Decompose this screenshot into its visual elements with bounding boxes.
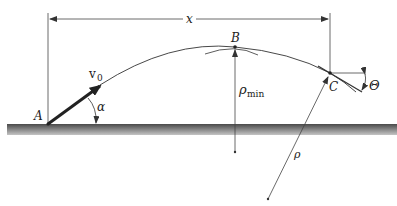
x-label: x [186,12,193,26]
theta-label: Θ [369,78,380,93]
curvature-arc-b [205,49,258,55]
tangent-line-c [318,66,362,92]
point-a [46,122,49,125]
rho-label: ρ [293,148,301,161]
center-of-curvature-c [267,198,269,200]
rho-min-label: ρ [238,82,247,97]
alpha-arc [88,98,96,123]
point-c [328,71,332,75]
center-of-curvature-b [234,151,236,153]
alpha-label: α [97,100,105,114]
ground [7,124,397,135]
trajectory-diagram: x Θ v 0 α A B ρ min C ρ [0,0,397,206]
point-c-label: C [329,80,338,94]
rho-min-subscript: min [247,89,264,99]
theta-arc [362,74,366,90]
point-b-label: B [230,31,240,45]
velocity-label: v [88,67,96,81]
rho-line [268,77,328,199]
velocity-subscript: 0 [97,73,103,83]
point-a-label: A [33,109,43,123]
velocity-vector [48,86,100,124]
trajectory-curve [100,46,356,92]
point-b [233,45,237,49]
